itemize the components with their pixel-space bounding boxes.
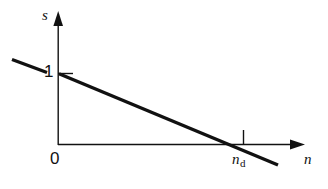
arrow-right-icon: [290, 140, 305, 150]
slip-speed-figure: s n nd 1 0: [0, 0, 328, 189]
origin-label-zero: 0: [50, 150, 59, 167]
x-axis-label: n: [304, 152, 312, 167]
x-tick-label-nd-base: n: [232, 151, 240, 167]
data-line-left-extension: [12, 60, 47, 73]
x-tick-label-nd: nd: [232, 152, 245, 167]
y-tick-label-one: 1: [44, 63, 53, 80]
arrow-up-icon: [53, 11, 63, 26]
data-line-main: [59, 74, 278, 165]
x-tick-label-nd-subscript: d: [240, 157, 246, 169]
y-axis-label: s: [42, 8, 48, 23]
